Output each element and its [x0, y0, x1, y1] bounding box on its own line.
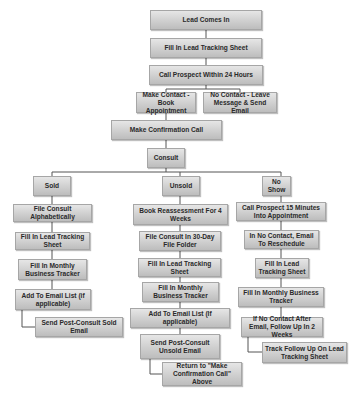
node-sold-add-email: Add To Email List (if applicable) — [15, 289, 91, 310]
node-unsold-book-reassess: Book Reassessment For 4 Weeks — [133, 204, 228, 225]
node-unsold-add-email: Add To Email List (If applicable) — [130, 308, 230, 328]
node-fill-lead-sheet: Fill In Lead Tracking Sheet — [150, 38, 262, 58]
node-sold-fill-lead-sheet: Fill In Lead Tracking Sheet — [15, 232, 90, 250]
node-unsold-send-email: Send Post-Consult Unsold Email — [140, 334, 220, 359]
node-sold-send-email: Send Post-Consult Sold Email — [35, 317, 123, 337]
flowchart-canvas: Lead Comes In Fill In Lead Tracking Shee… — [0, 0, 364, 393]
node-sold-file-consult: File Consult Alphabetically — [13, 204, 92, 222]
node-sold: Sold — [33, 176, 71, 196]
node-noshow-call: Call Prospect 15 Minutes Into Appointmen… — [236, 202, 326, 221]
node-unsold-fill-lead-sheet: Fill In Lead Tracking Sheet — [138, 258, 221, 277]
node-noshow-follow-up: If No Contact After Email, Follow Up In … — [241, 317, 323, 337]
node-unsold: Unsold — [162, 176, 200, 196]
node-noshow-email: In No Contact, Email To Reschedule — [244, 230, 319, 249]
node-make-contact: Make Contact - Book Appointment — [136, 92, 196, 113]
node-noshow-track: Track Follow Up On Lead Tracking Sheet — [262, 342, 347, 363]
node-consult: Consult — [147, 148, 185, 168]
node-unsold-fill-monthly: Fill In Monthly Business Tracker — [142, 282, 219, 302]
node-unsold-file-consult: File Consult In 30-Day File Folder — [139, 231, 221, 251]
node-sold-fill-monthly: Fill In Monthly Business Tracker — [18, 259, 87, 280]
node-unsold-return: Return to "Make Confirmation Call" Above — [162, 362, 242, 386]
node-call-prospect: Call Prospect Within 24 Hours — [149, 65, 263, 85]
node-no-show: No Show — [262, 176, 291, 196]
node-lead-comes-in: Lead Comes In — [150, 10, 262, 30]
node-no-contact: No Contact - Leave Message & Send Email — [203, 92, 277, 113]
node-noshow-fill-lead-sheet: Fill In Lead Tracking Sheet — [255, 258, 309, 278]
node-confirmation-call: Make Confirmation Call — [111, 120, 222, 140]
node-noshow-fill-monthly: Fill In Monthly Business Tracker — [238, 287, 324, 307]
